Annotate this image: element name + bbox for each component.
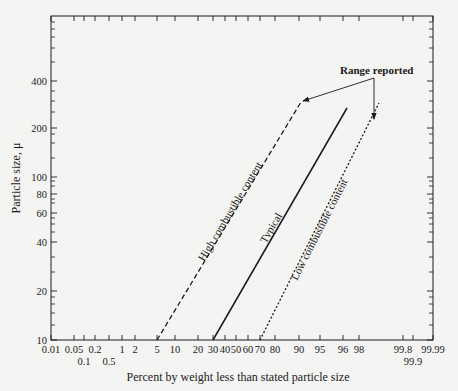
x-tick-label: 96 — [338, 344, 349, 355]
y-tick-label: 200 — [31, 123, 47, 134]
x-tick-label: 10 — [170, 344, 181, 355]
x-tick-label: 30 — [208, 344, 219, 355]
x-tick-label: 2 — [132, 344, 137, 355]
x-tick-label: 70 — [255, 344, 266, 355]
x-tick-label: 80 — [270, 344, 281, 355]
y-tick-label: 60 — [37, 208, 48, 219]
x-tick-label: 98 — [354, 344, 365, 355]
x-tick-label: 60 — [243, 344, 254, 355]
x-tick-label: 99.99 — [421, 344, 445, 355]
chart: 0.010.050.10.20.512510203040506070809095… — [0, 0, 458, 391]
y-tick-label: 20 — [37, 286, 48, 297]
y-axis-title: Particle size, μ — [9, 143, 23, 214]
x-tick-label: 90 — [294, 344, 305, 355]
x-tick-label: 20 — [193, 344, 204, 355]
x-tick-label: 40 — [220, 344, 231, 355]
y-tick-label: 80 — [37, 189, 48, 200]
x-tick-label: 0.1 — [77, 356, 90, 367]
x-tick-label: 99.8 — [394, 344, 412, 355]
y-tick-label: 100 — [31, 172, 47, 183]
x-tick-label: 5 — [154, 344, 159, 355]
x-axis-title: Percent by weight less than stated parti… — [127, 370, 350, 384]
label-high-combustible: High combustible content — [195, 159, 264, 263]
x-tick-label: 95 — [315, 344, 326, 355]
y-tick-label: 10 — [37, 335, 48, 346]
annotation-range-reported: Range reported — [340, 64, 413, 76]
x-tick-label: 99.9 — [404, 356, 422, 367]
x-tick-label: 1 — [119, 344, 124, 355]
x-tick-label: 0.2 — [88, 344, 101, 355]
annotation-arrow-left — [303, 78, 374, 101]
x-tick-label: 50 — [231, 344, 242, 355]
y-tick-label: 400 — [31, 76, 47, 87]
x-tick-label: 0.5 — [102, 356, 115, 367]
y-tick-label: 40 — [37, 237, 48, 248]
x-tick-label: 0.05 — [65, 344, 83, 355]
